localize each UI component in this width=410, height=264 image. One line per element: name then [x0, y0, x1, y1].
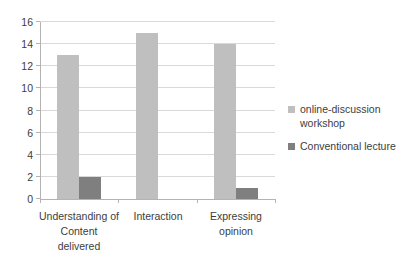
- category-label-line: delivered: [27, 239, 131, 254]
- y-axis-label: 10: [0, 82, 33, 94]
- bar-online-discussion-workshop: [214, 44, 236, 199]
- y-axis-label: 16: [0, 16, 33, 28]
- legend-item-online-discussion-workshop: online-discussionworkshop: [288, 102, 396, 130]
- legend-marker-icon: [288, 106, 295, 113]
- bar-online-discussion-workshop: [57, 55, 79, 199]
- legend-label: Conventional lecture: [300, 139, 396, 153]
- x-axis-tick: [275, 199, 276, 203]
- gridline: [40, 21, 275, 22]
- y-axis-label: 2: [0, 171, 33, 183]
- bar-conventional-lecture: [236, 188, 258, 199]
- x-axis-tick: [118, 199, 119, 203]
- x-axis-tick: [197, 199, 198, 203]
- legend: online-discussionworkshopConventional le…: [288, 102, 396, 162]
- x-axis-line: [40, 199, 276, 200]
- y-axis-label: 8: [0, 105, 33, 117]
- y-axis-line: [40, 22, 41, 199]
- y-axis-label: 0: [0, 193, 33, 205]
- y-axis-label: 6: [0, 127, 33, 139]
- bar-conventional-lecture: [79, 177, 101, 199]
- bar-online-discussion-workshop: [136, 33, 158, 199]
- legend-label-line: online-discussion: [300, 102, 381, 116]
- category-label-line: Content: [27, 224, 131, 239]
- category-label-line: opinion: [184, 224, 288, 239]
- legend-item-conventional-lecture: Conventional lecture: [288, 139, 396, 153]
- y-axis-label: 14: [0, 38, 33, 50]
- y-axis-label: 4: [0, 149, 33, 161]
- category-label-line: Expressing: [184, 209, 288, 224]
- legend-marker-icon: [288, 143, 295, 150]
- category-label: Expressingopinion: [184, 209, 288, 239]
- legend-label-line: workshop: [300, 116, 381, 130]
- x-axis-tick: [40, 199, 41, 203]
- legend-label-line: Conventional lecture: [300, 139, 396, 153]
- legend-label: online-discussionworkshop: [300, 102, 381, 130]
- y-axis-label: 12: [0, 60, 33, 72]
- bar-chart: 0246810121416Understanding ofContentdeli…: [0, 0, 410, 264]
